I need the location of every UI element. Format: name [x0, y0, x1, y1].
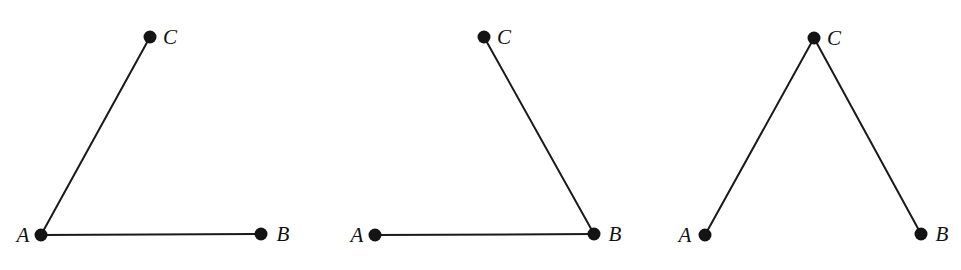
vertex-label-c: C [497, 25, 512, 49]
vertex-dot-b [588, 228, 601, 241]
segment-ab [375, 234, 594, 235]
geometry-diagram: ABCABCABC [0, 0, 961, 270]
vertex-label-b: B [609, 222, 622, 246]
vertex-dot-c [478, 31, 491, 44]
vertex-label-c: C [163, 25, 178, 49]
vertex-label-a: A [677, 223, 692, 247]
vertex-label-b: B [936, 222, 949, 246]
vertex-dot-c [144, 31, 157, 44]
vertex-label-a: A [15, 223, 30, 247]
vertex-dot-a [699, 229, 712, 242]
vertex-dot-a [35, 229, 48, 242]
figure-board: ABCABCABC [0, 0, 961, 270]
vertex-dot-b [255, 228, 268, 241]
vertex-dot-a [369, 229, 382, 242]
vertex-dot-b [915, 228, 928, 241]
segment-ab [41, 234, 261, 235]
vertex-label-c: C [827, 26, 842, 50]
vertex-label-b: B [277, 222, 290, 246]
vertex-dot-c [808, 32, 821, 45]
vertex-label-a: A [349, 223, 364, 247]
